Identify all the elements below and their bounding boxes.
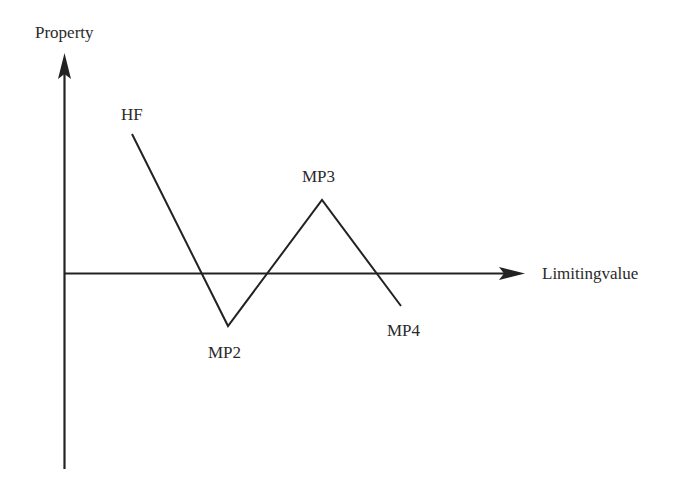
property-curve (132, 134, 401, 326)
y-axis (58, 53, 71, 469)
diagram-canvas (0, 0, 689, 487)
point-label-hf: HF (121, 106, 143, 123)
point-label-mp3: MP3 (302, 168, 335, 185)
property-vs-limiting-value-diagram: Property Limitingvalue HF MP2 MP3 MP4 (0, 0, 689, 487)
point-label-mp4: MP4 (387, 322, 420, 339)
y-axis-label: Property (35, 24, 94, 41)
point-label-mp2: MP2 (208, 344, 241, 361)
x-axis-label: Limitingvalue (542, 265, 638, 282)
x-axis (64, 267, 525, 280)
